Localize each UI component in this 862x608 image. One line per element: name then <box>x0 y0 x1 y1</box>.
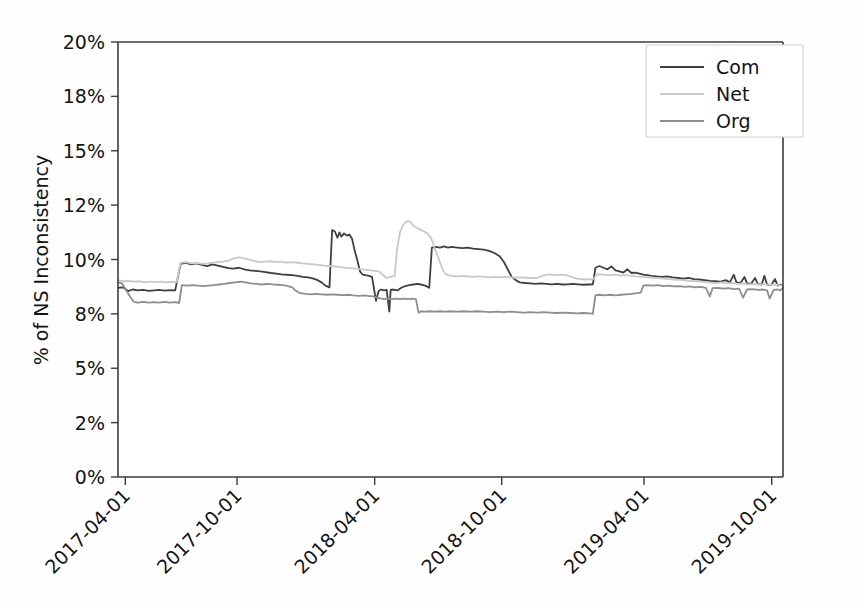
y-tick-label: 5% <box>75 357 105 379</box>
y-tick-label: 0% <box>75 466 105 488</box>
x-tick-label: 2019-10-01 <box>687 484 781 578</box>
y-tick-label: 2% <box>75 412 105 434</box>
x-tick-label: 2017-10-01 <box>152 484 246 578</box>
legend-label-org: Org <box>716 110 751 132</box>
y-tick-layer: 0%2%5%8%10%12%15%18%20% <box>63 31 118 488</box>
x-tick-label: 2017-04-01 <box>41 484 135 578</box>
chart-figure: 0%2%5%8%10%12%15%18%20% 2017-04-012017-1… <box>0 0 862 608</box>
x-tick-label: 2018-10-01 <box>417 484 511 578</box>
legend-label-net: Net <box>716 83 749 105</box>
y-axis-label: % of NS Inconsistency <box>30 155 52 365</box>
y-tick-label: 15% <box>63 140 105 162</box>
chart-legend: ComNetOrg <box>646 45 803 137</box>
line-chart: 0%2%5%8%10%12%15%18%20% 2017-04-012017-1… <box>0 0 862 608</box>
y-tick-label: 12% <box>63 194 105 216</box>
y-tick-label: 18% <box>63 85 105 107</box>
x-tick-layer: 2017-04-012017-10-012018-04-012018-10-01… <box>41 477 781 578</box>
x-tick-label: 2019-04-01 <box>559 484 653 578</box>
y-tick-label: 10% <box>63 249 105 271</box>
x-tick-label: 2018-04-01 <box>290 484 384 578</box>
legend-label-com: Com <box>716 56 759 78</box>
y-axis-label-group: % of NS Inconsistency <box>30 155 52 365</box>
y-tick-label: 8% <box>75 303 105 325</box>
y-tick-label: 20% <box>63 31 105 53</box>
